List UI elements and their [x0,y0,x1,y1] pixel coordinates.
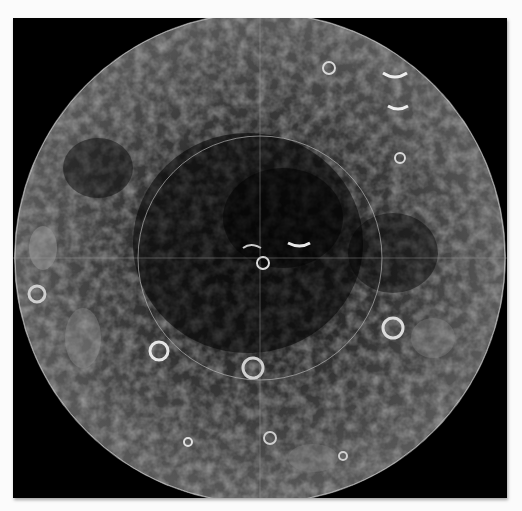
photo-frame [0,0,522,511]
moon-surface-image [13,18,507,498]
lunar-photo [13,18,507,498]
